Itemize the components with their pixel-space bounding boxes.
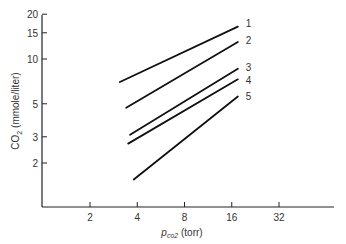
series-label-5: 5 xyxy=(246,91,252,102)
y-tick-label: 20 xyxy=(27,9,39,20)
series-label-3: 3 xyxy=(246,62,252,73)
y-tick-label: 5 xyxy=(32,99,38,110)
x-tick-label: 8 xyxy=(182,212,188,223)
x-tick-label: 16 xyxy=(226,212,238,223)
data-lines: 12345 xyxy=(120,18,252,180)
x-ticks: 2481632 xyxy=(87,202,285,223)
x-tick-label: 32 xyxy=(273,212,285,223)
y-tick-label: 10 xyxy=(27,54,39,65)
svg-text:CO2 (mmole/liter): CO2 (mmole/liter) xyxy=(10,72,23,149)
series-label-4: 4 xyxy=(246,75,252,86)
x-axis-label: pco2 (torr) xyxy=(160,227,202,239)
axes xyxy=(42,15,334,207)
chart: 235101520 2481632 12345 CO2 (mmole/liter… xyxy=(0,0,346,244)
x-tick-label: 2 xyxy=(87,212,93,223)
series-label-2: 2 xyxy=(246,35,252,46)
series-line-3 xyxy=(130,69,238,135)
x-tick-label: 4 xyxy=(134,212,140,223)
y-tick-label: 3 xyxy=(32,132,38,143)
y-axis-label: CO2 (mmole/liter) xyxy=(10,72,23,149)
y-ticks: 235101520 xyxy=(27,9,47,169)
series-label-1: 1 xyxy=(246,18,252,29)
y-tick-label: 15 xyxy=(27,28,39,39)
y-tick-label: 2 xyxy=(32,158,38,169)
series-line-4 xyxy=(128,79,238,143)
series-line-1 xyxy=(120,27,238,82)
svg-text:pco2 (torr): pco2 (torr) xyxy=(160,227,202,239)
